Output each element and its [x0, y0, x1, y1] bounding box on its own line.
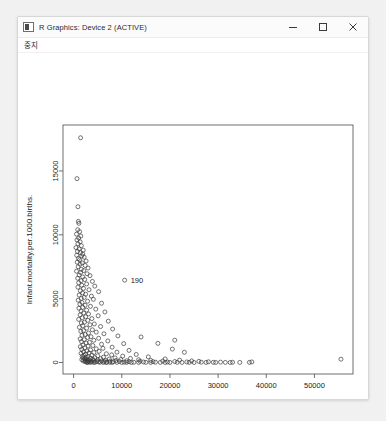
data-point	[86, 266, 90, 270]
data-point	[90, 317, 94, 321]
y-axis-title: Infant.mortality.per.1000.births.	[25, 195, 34, 304]
data-point	[100, 301, 104, 305]
scatter-plot: 01000020000300004000050000 0500010000150…	[18, 53, 368, 399]
x-tick-label: 50000	[304, 381, 325, 390]
maximize-icon	[318, 22, 328, 32]
y-tick-label: 10000	[51, 224, 60, 245]
data-point	[86, 299, 90, 303]
r-graphics-window: R Graphics: Device 2 (ACTIVE) 중지	[17, 16, 369, 400]
data-point	[84, 259, 88, 263]
data-point	[238, 360, 242, 364]
minimize-icon	[288, 22, 298, 32]
data-point	[88, 304, 92, 308]
data-point	[79, 329, 83, 333]
x-tick-label: 30000	[208, 381, 229, 390]
data-point	[153, 360, 157, 364]
data-point	[90, 328, 94, 332]
data-point	[199, 360, 203, 364]
data-point	[110, 353, 114, 357]
data-point	[339, 357, 343, 361]
x-tick-label: 0	[72, 381, 76, 390]
data-point	[223, 360, 227, 364]
data-point	[102, 332, 106, 336]
data-point	[79, 136, 83, 140]
data-point	[127, 348, 131, 352]
data-point	[111, 327, 115, 331]
data-point	[77, 317, 81, 321]
data-point	[101, 346, 105, 350]
maximize-button[interactable]	[308, 17, 338, 37]
y-tick-label: 5000	[51, 290, 60, 307]
x-tick-label: 40000	[256, 381, 277, 390]
r-graphics-icon	[23, 22, 34, 32]
data-point	[96, 314, 100, 318]
menubar: 중지	[18, 38, 368, 53]
data-point	[76, 285, 80, 289]
data-point	[250, 360, 254, 364]
data-point	[170, 347, 174, 351]
y-tick-label: 0	[51, 360, 60, 364]
data-point	[180, 360, 184, 364]
close-button[interactable]	[338, 17, 368, 37]
data-point	[139, 335, 143, 339]
data-point	[75, 177, 79, 181]
point-annotations: 190	[131, 276, 144, 285]
data-point	[173, 360, 177, 364]
plot-canvas: 01000020000300004000050000 0500010000150…	[18, 53, 368, 399]
data-point	[106, 319, 110, 323]
x-tick-label: 20000	[160, 381, 181, 390]
data-point	[175, 360, 179, 364]
data-point	[156, 341, 160, 345]
data-point	[115, 350, 119, 354]
data-point	[134, 352, 138, 356]
data-point	[94, 330, 98, 334]
data-point	[129, 360, 133, 364]
data-point	[81, 329, 85, 333]
data-point	[97, 290, 101, 294]
data-point	[76, 205, 80, 209]
y-axis-ticks: 050001000015000	[51, 161, 63, 365]
data-point	[123, 278, 127, 282]
x-tick-label: 10000	[111, 381, 132, 390]
data-point	[92, 322, 96, 326]
data-point	[88, 323, 92, 327]
data-point	[100, 342, 104, 346]
data-point	[97, 349, 101, 353]
data-point	[219, 360, 223, 364]
point-annotation: 190	[131, 276, 144, 285]
data-point	[113, 356, 117, 360]
data-point	[94, 307, 98, 311]
x-axis-ticks: 01000020000300004000050000	[72, 374, 325, 390]
data-point	[103, 310, 107, 314]
data-point	[91, 297, 95, 301]
data-point	[85, 272, 89, 276]
menu-stop[interactable]: 중지	[20, 39, 42, 52]
data-point	[77, 306, 81, 310]
window-titlebar[interactable]: R Graphics: Device 2 (ACTIVE)	[18, 17, 368, 38]
data-point	[74, 269, 78, 273]
data-point	[90, 279, 94, 283]
data-point	[97, 336, 101, 340]
minimize-button[interactable]	[278, 17, 308, 37]
data-point	[75, 260, 79, 264]
data-points	[74, 136, 343, 365]
y-tick-label: 15000	[51, 161, 60, 182]
data-point	[106, 339, 110, 343]
data-point	[168, 360, 172, 364]
data-point	[214, 360, 218, 364]
data-point	[77, 325, 81, 329]
data-point	[178, 358, 182, 362]
close-icon	[348, 22, 358, 32]
data-point	[93, 284, 97, 288]
data-point	[85, 282, 89, 286]
data-point	[182, 350, 186, 354]
data-point	[87, 288, 91, 292]
data-point	[88, 274, 92, 278]
data-point	[91, 344, 95, 348]
data-point	[74, 232, 78, 236]
data-point	[92, 338, 96, 342]
plot-frame	[63, 125, 353, 374]
window-title: R Graphics: Device 2 (ACTIVE)	[39, 23, 278, 32]
data-point	[99, 325, 103, 329]
data-point	[78, 313, 82, 317]
